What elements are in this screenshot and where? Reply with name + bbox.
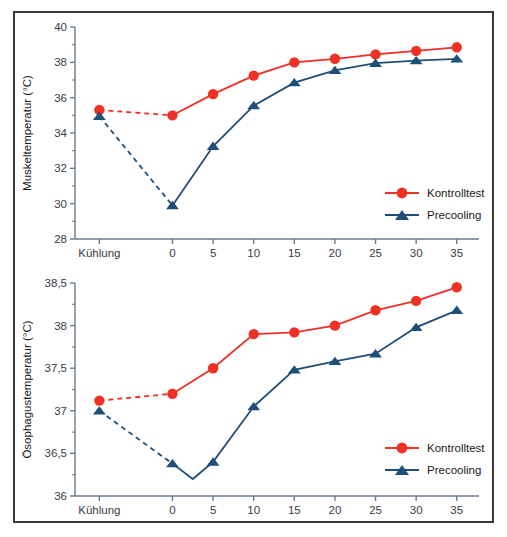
y-tick-label: 28 — [54, 233, 67, 245]
y-axis-title: Ösophagustemperatur (°C) — [21, 320, 33, 458]
y-tick-label: 38,5 — [45, 277, 67, 289]
data-point-triangle — [207, 457, 220, 465]
x-tick-label: 20 — [329, 247, 342, 259]
x-tick-label: 30 — [410, 247, 423, 259]
data-point-circle — [289, 57, 299, 67]
x-tick-label: 10 — [247, 504, 260, 516]
chart-panel-muskeltemperatur: 28303234363840Kühlung05101520253035Muske… — [15, 13, 492, 263]
data-point-triangle — [450, 306, 463, 314]
data-point-circle — [167, 110, 177, 120]
figure-frame: 28303234363840Kühlung05101520253035Muske… — [13, 11, 494, 523]
data-point-circle — [330, 320, 340, 330]
chart-svg-oesophagustemperatur: 3636,53737,53838,5Kühlung05101520253035Ö… — [15, 263, 492, 521]
legend-marker-circle — [397, 443, 408, 454]
data-point-circle — [411, 46, 421, 56]
x-tick-label: 25 — [369, 504, 382, 516]
legend-marker-circle — [397, 188, 408, 199]
x-tick-label: 0 — [169, 247, 175, 259]
data-point-triangle — [93, 406, 106, 414]
data-point-circle — [289, 327, 299, 337]
x-tick-label: Kühlung — [78, 247, 120, 259]
y-tick-label: 32 — [54, 162, 67, 174]
x-tick-label: 15 — [288, 247, 301, 259]
legend-label: Kontrolltest — [427, 442, 485, 454]
y-tick-label: 34 — [54, 127, 67, 139]
y-tick-label: 36,5 — [45, 447, 67, 459]
x-tick-label: Kühlung — [78, 504, 120, 516]
y-tick-label: 37 — [54, 405, 67, 417]
data-point-circle — [94, 395, 104, 405]
data-point-circle — [208, 89, 218, 99]
legend-label: Precooling — [427, 209, 481, 221]
data-point-triangle — [410, 323, 423, 331]
legend-label: Precooling — [427, 464, 481, 476]
data-point-triangle — [166, 201, 179, 209]
chart-panel-oesophagustemperatur: 3636,53737,53838,5Kühlung05101520253035Ö… — [15, 263, 492, 521]
legend-item-kontrolltest[interactable]: Kontrolltest — [385, 187, 485, 199]
data-point-circle — [411, 296, 421, 306]
data-point-circle — [452, 282, 462, 292]
y-tick-label: 37,5 — [45, 362, 67, 374]
y-tick-label: 30 — [54, 198, 67, 210]
data-point-triangle — [93, 112, 106, 120]
x-tick-label: 35 — [450, 247, 463, 259]
legend-item-precooling[interactable]: Precooling — [385, 464, 481, 476]
data-point-circle — [330, 54, 340, 64]
x-tick-label: 35 — [450, 504, 463, 516]
x-tick-label: 20 — [329, 504, 342, 516]
x-tick-label: 0 — [169, 504, 175, 516]
x-tick-label: 5 — [210, 247, 216, 259]
x-tick-label: 5 — [210, 504, 216, 516]
data-point-circle — [208, 363, 218, 373]
data-point-circle — [167, 389, 177, 399]
data-point-circle — [248, 70, 258, 80]
y-tick-label: 38 — [54, 320, 67, 332]
legend-label: Kontrolltest — [427, 187, 485, 199]
y-axis-title: Muskeltemperatur (°C) — [21, 75, 33, 191]
y-tick-label: 36 — [54, 92, 67, 104]
data-point-circle — [452, 42, 462, 52]
legend-item-kontrolltest[interactable]: Kontrolltest — [385, 442, 485, 454]
x-tick-label: 25 — [369, 247, 382, 259]
data-point-triangle — [288, 78, 301, 86]
data-point-circle — [370, 305, 380, 315]
y-tick-label: 36 — [54, 490, 67, 502]
y-tick-label: 38 — [54, 56, 67, 68]
legend-item-precooling[interactable]: Precooling — [385, 209, 481, 221]
data-point-circle — [370, 49, 380, 59]
data-point-circle — [248, 329, 258, 339]
x-tick-label: 10 — [247, 247, 260, 259]
y-tick-label: 40 — [54, 21, 67, 33]
chart-svg-muskeltemperatur: 28303234363840Kühlung05101520253035Muske… — [15, 13, 492, 263]
x-tick-label: 15 — [288, 504, 301, 516]
x-tick-label: 30 — [410, 504, 423, 516]
